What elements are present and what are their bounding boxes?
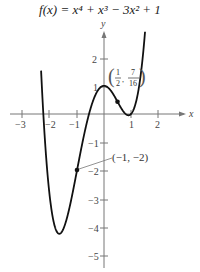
x-tick-label: −1 <box>69 119 80 130</box>
svg-text:,: , <box>122 75 124 84</box>
svg-text:): ) <box>139 65 146 88</box>
y-tick-label: −1 <box>88 138 99 149</box>
point-marker-half-7-16 <box>115 99 120 104</box>
x-axis-label: x <box>188 108 194 119</box>
svg-text:1: 1 <box>116 68 120 77</box>
y-axis-label: y <box>100 18 106 29</box>
y-tick-label: −3 <box>88 195 99 206</box>
svg-text:2: 2 <box>116 79 120 88</box>
y-tick-label: −5 <box>88 251 99 262</box>
y-tick-label: −2 <box>88 166 99 177</box>
svg-text:16: 16 <box>129 79 137 88</box>
svg-text:7: 7 <box>131 68 135 77</box>
x-axis-arrow-icon <box>179 112 186 117</box>
x-tick-label: 2 <box>155 119 160 130</box>
x-tick-label: 1 <box>129 119 134 130</box>
y-tick-label: 2 <box>92 54 97 65</box>
point-marker-neg1-neg2 <box>75 168 80 173</box>
y-axis-arrow-icon <box>102 31 107 38</box>
x-tick-label: −3 <box>15 119 26 130</box>
point-label-neg1-neg2: (−1, −2) <box>112 151 149 164</box>
chart-canvas: x y −3 −2 −1 1 2 2 1 −1 −2 −3 −4 −5 (−1,… <box>0 0 200 272</box>
point-label-half-7-16: ( 1 2 , 7 16 ) <box>108 65 146 88</box>
x-tick-label: −2 <box>45 119 56 130</box>
y-tick-label: −4 <box>88 223 99 234</box>
svg-text:(: ( <box>108 65 115 88</box>
